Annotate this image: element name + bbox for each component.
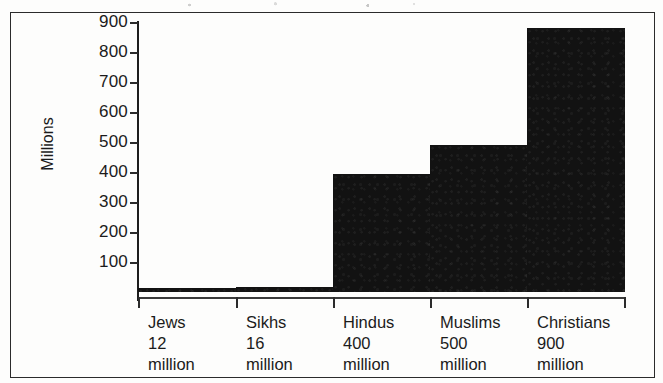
x-label-muslims-name: Muslims xyxy=(440,312,501,333)
y-tick-label-500: 500 xyxy=(76,132,128,152)
x-label-sikhs-unit: million xyxy=(246,354,293,375)
y-tick-200 xyxy=(130,232,138,234)
y-axis-title: Millions xyxy=(39,84,57,204)
x-label-hindus: Hindus 400 million xyxy=(343,312,394,375)
x-tick-4 xyxy=(527,297,529,308)
bar-muslims xyxy=(430,145,527,292)
y-tick-500 xyxy=(130,142,138,144)
y-tick-label-400: 400 xyxy=(76,162,128,182)
x-label-hindus-number: 400 xyxy=(343,333,394,354)
x-tick-0 xyxy=(138,297,140,308)
x-label-muslims-number: 500 xyxy=(440,333,501,354)
x-label-hindus-unit: million xyxy=(343,354,394,375)
x-tick-1 xyxy=(236,297,238,308)
y-tick-300 xyxy=(130,202,138,204)
x-label-christians-unit: million xyxy=(537,354,610,375)
x-label-christians-number: 900 xyxy=(537,333,610,354)
y-tick-700 xyxy=(130,82,138,84)
x-label-jews: Jews 12 million xyxy=(148,312,195,375)
y-tick-label-900: 900 xyxy=(76,12,128,32)
x-label-jews-unit: million xyxy=(148,354,195,375)
bar-chart: Millions 900 800 700 600 500 400 300 200… xyxy=(0,0,663,383)
y-tick-800 xyxy=(130,52,138,54)
y-tick-400 xyxy=(130,172,138,174)
x-label-hindus-name: Hindus xyxy=(343,312,394,333)
bar-sikhs xyxy=(236,287,333,292)
y-tick-label-800: 800 xyxy=(76,42,128,62)
y-tick-label-300: 300 xyxy=(76,192,128,212)
y-tick-100 xyxy=(130,262,138,264)
y-tick-label-200: 200 xyxy=(76,222,128,242)
y-axis-line xyxy=(137,21,139,301)
x-label-jews-number: 12 xyxy=(148,333,195,354)
x-tick-3 xyxy=(430,297,432,308)
x-label-jews-name: Jews xyxy=(148,312,195,333)
x-tick-2 xyxy=(333,297,335,308)
x-tick-5 xyxy=(624,297,626,308)
y-tick-label-100: 100 xyxy=(76,252,128,272)
y-tick-label-700: 700 xyxy=(76,72,128,92)
x-label-muslims: Muslims 500 million xyxy=(440,312,501,375)
x-label-sikhs: Sikhs 16 million xyxy=(246,312,293,375)
bar-hindus xyxy=(333,174,430,292)
x-axis-line xyxy=(138,297,626,299)
x-label-muslims-unit: million xyxy=(440,354,501,375)
y-tick-900 xyxy=(130,22,138,24)
y-tick-600 xyxy=(130,112,138,114)
x-label-sikhs-name: Sikhs xyxy=(246,312,293,333)
bar-jews xyxy=(138,288,236,292)
bar-christians xyxy=(527,28,625,292)
x-label-christians-name: Christians xyxy=(537,312,610,333)
x-label-christians: Christians 900 million xyxy=(537,312,610,375)
y-tick-label-600: 600 xyxy=(76,102,128,122)
x-label-sikhs-number: 16 xyxy=(246,333,293,354)
